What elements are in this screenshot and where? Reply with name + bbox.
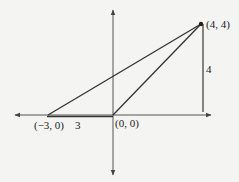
origin-label: (0, 0) xyxy=(115,118,139,129)
point-b-dot xyxy=(199,22,203,26)
base-length-label: 3 xyxy=(75,120,81,131)
point-b-label: (4, 4) xyxy=(206,19,230,30)
height-length-label: 4 xyxy=(206,64,212,75)
coordinate-diagram xyxy=(0,0,239,182)
edge-o-b xyxy=(113,24,201,115)
edge-a-b xyxy=(48,24,201,115)
point-a-label: (−3, 0) xyxy=(34,120,64,131)
